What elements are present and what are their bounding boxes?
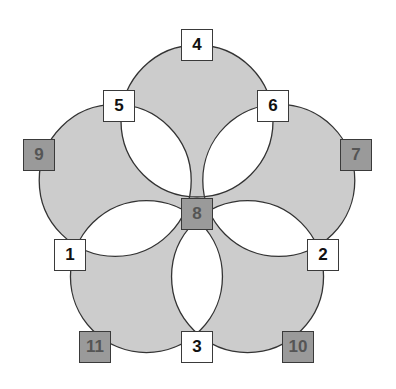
node-3: 3 xyxy=(181,331,213,363)
node-11: 11 xyxy=(79,331,111,363)
node-1: 1 xyxy=(54,239,86,271)
rosette-diagram: 1 2 3 4 5 6 7 8 9 10 11 xyxy=(0,0,396,389)
node-5: 5 xyxy=(103,90,135,122)
node-9: 9 xyxy=(23,139,55,171)
node-4: 4 xyxy=(181,29,213,61)
node-10: 10 xyxy=(282,331,314,363)
node-6: 6 xyxy=(257,90,289,122)
node-2: 2 xyxy=(307,239,339,271)
node-8-center: 8 xyxy=(181,198,213,230)
node-7: 7 xyxy=(340,139,372,171)
